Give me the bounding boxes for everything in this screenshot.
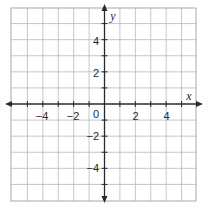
x-tick-label: −4	[36, 110, 49, 122]
y-tick-label: −2	[86, 130, 99, 142]
tick-labels: −4 −2 2 4 4 2 −2 −4 0 x y	[36, 9, 193, 174]
y-axis-label: y	[109, 9, 116, 23]
x-axis-right-arrow-icon	[196, 101, 203, 107]
x-tick-label: −2	[67, 110, 80, 122]
y-axis-bottom-arrow-icon	[102, 196, 108, 203]
y-tick-label: −4	[86, 162, 99, 174]
y-tick-label: 4	[93, 35, 99, 47]
x-axis-label: x	[185, 89, 192, 103]
x-axis-left-arrow-icon	[5, 101, 12, 107]
x-tick-label: 4	[163, 110, 169, 122]
coordinate-plane: −4 −2 2 4 4 2 −2 −4 0 x y	[0, 0, 208, 216]
x-tick-label: 2	[132, 110, 138, 122]
y-tick-label: 2	[93, 67, 99, 79]
origin-label: 0	[93, 108, 99, 120]
axes	[5, 4, 203, 203]
